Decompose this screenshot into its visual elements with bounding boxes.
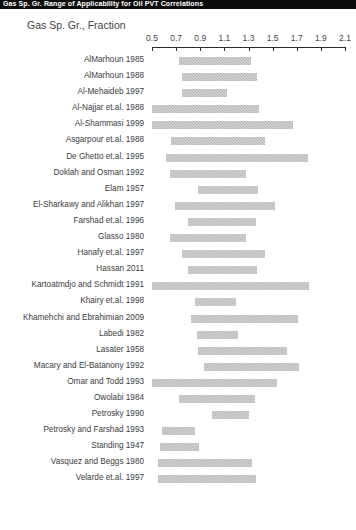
chart-row: Hassan 2011 [0, 263, 356, 279]
x-tick-label: 1.5 [267, 33, 279, 43]
range-bar [179, 395, 255, 403]
range-bar [171, 137, 265, 145]
chart-row: Labedi 1982 [0, 328, 356, 344]
x-tick-label: 1.7 [291, 33, 303, 43]
chart-row: Khamehchi and Ebrahimian 2009 [0, 312, 356, 328]
range-bar [188, 266, 257, 274]
range-bar [195, 298, 236, 306]
range-bar [182, 89, 227, 97]
range-bar [188, 218, 256, 226]
x-tick-mark [152, 47, 153, 51]
chart-title: Gas Sp. Gr., Fraction [27, 19, 126, 31]
range-bar [152, 379, 277, 387]
row-label: Macary and El-Batanony 1992 [34, 361, 144, 370]
row-label: Kartoatmdjo and Schmidt 1991 [32, 280, 144, 289]
row-label: Al-Mehaideb 1997 [78, 87, 144, 96]
row-label: Owolabi 1984 [94, 393, 144, 402]
row-label: Doklah and Osman 1992 [53, 168, 144, 177]
x-tick-label: 0.5 [146, 33, 158, 43]
chart-row: Farshad et.al. 1996 [0, 215, 356, 231]
range-bar [152, 121, 293, 129]
row-label: Hassan 2011 [96, 264, 144, 273]
chart-row: Asgarpour et.al. 1988 [0, 134, 356, 150]
chart-row: Kartoatmdjo and Schmidt 1991 [0, 279, 356, 295]
chart-row: Al-Mehaideb 1997 [0, 86, 356, 102]
chart-row: Macary and El-Batanony 1992 [0, 360, 356, 376]
chart-row: AlMarhoun 1988 [0, 70, 356, 86]
chart-row: Al-Najjar et.al. 1988 [0, 102, 356, 118]
page-header-title: Gas Sp. Gr. Range of Applicability for O… [0, 0, 356, 8]
range-bar [158, 475, 256, 483]
range-bar [182, 250, 265, 258]
range-bar [197, 331, 238, 339]
x-tick-mark [321, 47, 322, 51]
row-label: Al-Najjar et.al. 1988 [72, 103, 144, 112]
range-bar [204, 363, 299, 371]
chart-row: De Ghetto et.al. 1995 [0, 151, 356, 167]
row-label: El-Sharkawy and Alikhan 1997 [33, 200, 144, 209]
row-label: Hanafy et.al. 1997 [78, 248, 144, 257]
range-chart: 0.50.70.91.11.31.51.71.92.1 AlMarhoun 19… [0, 33, 356, 530]
chart-row: El-Sharkawy and Alikhan 1997 [0, 199, 356, 215]
range-bar [198, 186, 258, 194]
chart-row: Vasquez and Beggs 1980 [0, 456, 356, 472]
row-label: Glasso 1980 [98, 232, 144, 241]
x-tick-mark [224, 47, 225, 51]
x-tick-label: 0.7 [170, 33, 182, 43]
range-bar [198, 347, 287, 355]
row-label: Al-Shammasi 1999 [75, 119, 144, 128]
x-tick-mark [297, 47, 298, 51]
range-bar [166, 154, 307, 162]
chart-row: Khairy et.al. 1998 [0, 295, 356, 311]
row-label: Omar and Todd 1993 [67, 377, 144, 386]
x-tick-mark [273, 47, 274, 51]
chart-row: Omar and Todd 1993 [0, 376, 356, 392]
row-label: Elam 1957 [105, 184, 144, 193]
chart-row: Petrosky 1990 [0, 408, 356, 424]
range-bar [162, 427, 196, 435]
chart-rows: AlMarhoun 1985AlMarhoun 1988Al-Mehaideb … [0, 54, 356, 489]
range-bar [152, 105, 259, 113]
chart-row: Petrosky and Farshad 1993 [0, 424, 356, 440]
chart-row: Velarde et.al. 1997 [0, 472, 356, 488]
row-label: Petrosky and Farshad 1993 [43, 425, 144, 434]
page-header-bar: Gas Sp. Gr. Range of Applicability for O… [0, 0, 356, 9]
x-tick-mark [249, 47, 250, 51]
row-label: Farshad et.al. 1996 [73, 216, 144, 225]
range-bar [170, 170, 246, 178]
row-label: Petrosky 1990 [92, 409, 144, 418]
range-bar [158, 459, 252, 467]
row-label: Labedi 1982 [99, 329, 144, 338]
x-axis-tick-labels: 0.50.70.91.11.31.51.71.92.1 [0, 33, 356, 46]
chart-row: Lasater 1958 [0, 344, 356, 360]
range-bar [175, 202, 275, 210]
row-label: Khamehchi and Ebrahimian 2009 [23, 313, 144, 322]
x-tick-label: 1.9 [315, 33, 327, 43]
row-label: De Ghetto et.al. 1995 [66, 152, 144, 161]
chart-row: Standing 1947 [0, 440, 356, 456]
row-label: AlMarhoun 1985 [84, 55, 144, 64]
chart-row: Owolabi 1984 [0, 392, 356, 408]
row-label: Lasater 1958 [96, 345, 144, 354]
x-tick-label: 2.1 [339, 33, 351, 43]
x-tick-mark [200, 47, 201, 51]
chart-row: AlMarhoun 1985 [0, 54, 356, 70]
row-label: Velarde et.al. 1997 [76, 473, 144, 482]
x-tick-label: 1.3 [243, 33, 255, 43]
x-tick-label: 1.1 [218, 33, 230, 43]
chart-row: Doklah and Osman 1992 [0, 167, 356, 183]
chart-row: Elam 1957 [0, 183, 356, 199]
range-bar [170, 234, 246, 242]
x-tick-label: 0.9 [194, 33, 206, 43]
row-label: Khairy et.al. 1998 [80, 296, 144, 305]
range-bar [152, 282, 309, 290]
range-bar [212, 411, 248, 419]
x-tick-mark [345, 47, 346, 51]
chart-row: Glasso 1980 [0, 231, 356, 247]
chart-row: Hanafy et.al. 1997 [0, 247, 356, 263]
row-label: Standing 1947 [91, 441, 144, 450]
range-bar [179, 57, 251, 65]
row-label: Asgarpour et.al. 1988 [66, 135, 144, 144]
range-bar [191, 315, 298, 323]
chart-row: Al-Shammasi 1999 [0, 118, 356, 134]
